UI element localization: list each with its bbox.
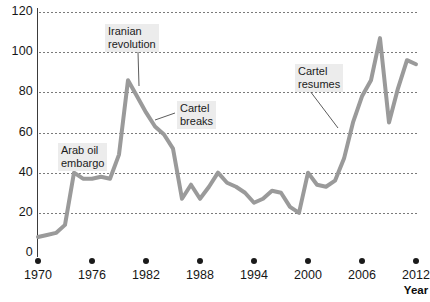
annotation-line-2: embargo [61, 157, 104, 170]
leader-line-cartel-resumes [310, 91, 338, 128]
leader-line-cartel-breaks [155, 113, 175, 120]
leader-line-iranian-revolution [138, 52, 139, 86]
annotation-cartel-resumes: Cartelresumes [295, 64, 343, 92]
annotation-iranian-revolution: Iranianrevolution [105, 24, 159, 52]
annotation-line-2: resumes [298, 78, 340, 91]
annotation-cartel-breaks: Cartelbreaks [177, 101, 216, 129]
annotation-line-1: Cartel [180, 102, 213, 115]
annotation-line-2: revolution [108, 38, 156, 51]
annotation-line-2: breaks [180, 115, 213, 128]
annotation-line-1: Iranian [108, 25, 156, 38]
annotation-line-1: Arab oil [61, 144, 104, 157]
annotation-arab-oil-embargo: Arab oilembargo [58, 143, 107, 171]
annotation-line-1: Cartel [298, 65, 340, 78]
